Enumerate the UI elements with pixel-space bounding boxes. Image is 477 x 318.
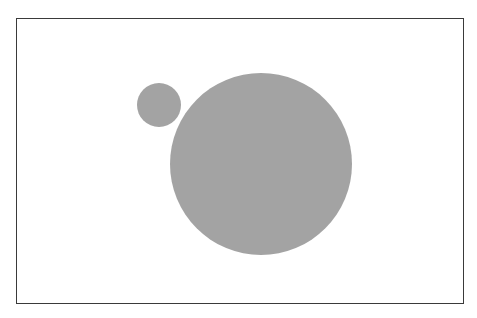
small-circle bbox=[137, 83, 181, 127]
large-circle bbox=[170, 73, 352, 255]
diagram-canvas bbox=[0, 0, 477, 318]
